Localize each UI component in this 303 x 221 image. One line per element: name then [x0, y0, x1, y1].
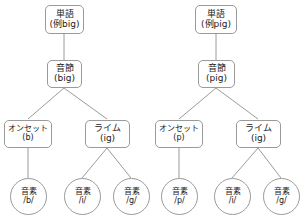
edge-rime-phoneme-g-left [107, 148, 131, 178]
node-phoneme-i-right: 音素 /i/ [214, 178, 251, 215]
node-phoneme-g-left: 音素 /g/ [113, 178, 150, 215]
edge-rime-phoneme-i-left [82, 148, 107, 178]
node-label-line2: (big) [54, 74, 75, 84]
node-label-line2: /b/ [23, 197, 33, 206]
node-onset-p: オンセット (p) [155, 120, 203, 148]
node-rime-ig-right: ライム (ig) [236, 120, 281, 148]
node-label-line2: (ig) [100, 134, 115, 144]
node-syllable-big: 音節 (big) [47, 60, 82, 88]
edge-syllable-onset-right [179, 88, 216, 119]
node-word-big: 単語 (例big) [45, 5, 84, 34]
node-label-line2: /g/ [276, 197, 286, 206]
node-label-line2: (例big) [50, 20, 80, 30]
node-label-line2: (pig) [206, 74, 227, 84]
node-phoneme-g-right: 音素 /g/ [263, 178, 300, 215]
node-label-line2: (例pig) [201, 20, 231, 30]
node-label-line2: /g/ [126, 197, 136, 206]
node-label-line2: /p/ [174, 197, 184, 206]
node-label-line2: /i/ [229, 197, 237, 206]
diagram-canvas: 単語 (例big) 音節 (big) オンセット (b) ライム (ig) 音素… [0, 0, 303, 221]
edge-rime-phoneme-g-right [258, 148, 281, 178]
node-label-line2: (ig) [251, 134, 266, 144]
edge-rime-phoneme-i-right [232, 148, 258, 178]
edge-syllable-onset-left [28, 88, 64, 119]
node-label-line2: (p) [173, 134, 184, 143]
node-phoneme-i-left: 音素 /i/ [64, 178, 101, 215]
edge-syllable-rime-right [216, 88, 258, 119]
node-label-line2: /i/ [79, 197, 87, 206]
node-rime-ig-left: ライム (ig) [85, 120, 130, 148]
node-word-pig: 単語 (例pig) [195, 5, 237, 34]
node-phoneme-p: 音素 /p/ [161, 178, 198, 215]
node-label-line2: (b) [22, 134, 33, 143]
edge-layer [0, 0, 303, 221]
node-onset-b: オンセット (b) [4, 120, 52, 148]
node-syllable-pig: 音節 (pig) [198, 60, 235, 88]
edge-syllable-rime-left [64, 88, 107, 119]
node-phoneme-b: 音素 /b/ [10, 178, 47, 215]
